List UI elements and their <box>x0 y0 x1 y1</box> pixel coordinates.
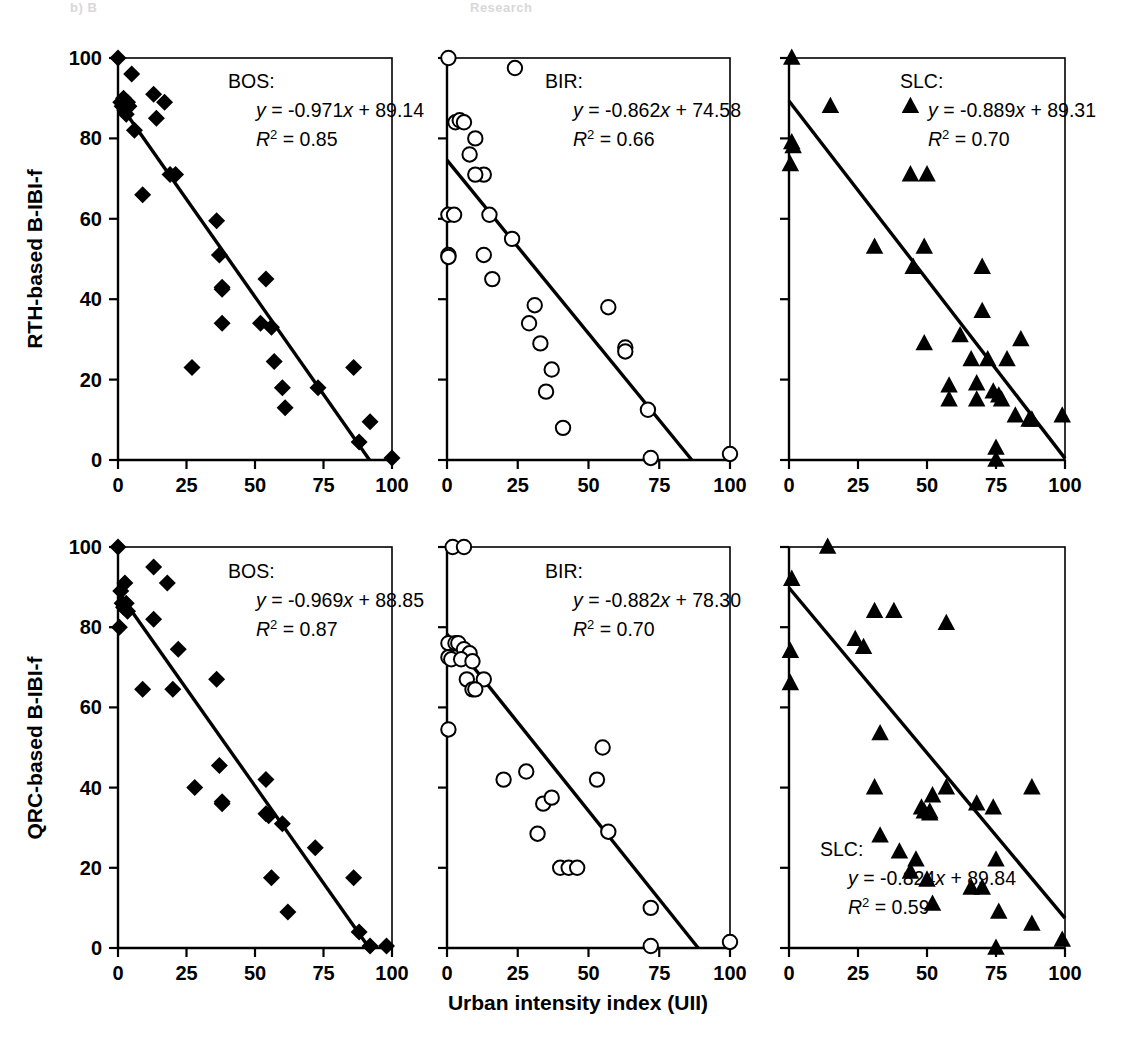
data-point-diamond <box>183 359 200 376</box>
data-point-triangle <box>885 602 902 618</box>
x-tick-label: 75 <box>312 962 334 984</box>
data-point-circle <box>644 901 658 915</box>
annotation-r-squared: R2 = 0.70 <box>573 617 655 640</box>
annotation-site-label: BOS: <box>228 560 275 582</box>
y-tick-label: 20 <box>80 369 102 391</box>
data-point-circle <box>601 300 615 314</box>
data-point-diamond <box>266 353 283 370</box>
data-point-triangle <box>918 165 935 181</box>
data-point-diamond <box>274 379 291 396</box>
y-tick-label: 20 <box>80 857 102 879</box>
data-point-circle <box>468 167 482 181</box>
x-tick-label: 25 <box>175 962 197 984</box>
x-tick-label: 100 <box>713 474 746 496</box>
annotation-equation: y = -0.882x + 78.30 <box>571 589 741 611</box>
data-point-circle <box>468 131 482 145</box>
data-point-diamond <box>110 50 127 67</box>
data-point-circle <box>618 344 632 358</box>
y-tick-label: 100 <box>69 536 102 558</box>
data-point-circle <box>545 790 559 804</box>
data-point-diamond <box>170 641 187 658</box>
data-point-triangle <box>973 258 990 274</box>
data-point-triangle <box>987 850 1004 866</box>
data-point-diamond <box>279 903 296 920</box>
x-tick-label: 25 <box>847 962 869 984</box>
annotation-site-label: BIR: <box>545 560 583 582</box>
annotation-r-squared: R2 = 0.85 <box>256 127 338 150</box>
data-point-diamond <box>208 212 225 229</box>
x-tick-label: 50 <box>577 962 599 984</box>
data-point-diamond <box>208 671 225 688</box>
data-point-circle <box>601 825 615 839</box>
data-point-circle <box>723 935 737 949</box>
x-tick-label: 0 <box>441 962 452 984</box>
data-point-triangle <box>904 258 921 274</box>
data-point-circle <box>447 208 461 222</box>
data-point-triangle <box>866 778 883 794</box>
panel-top-right: 0255075100SLC:y = -0.889x + 89.31R2 = 0.… <box>780 49 1096 497</box>
x-tick-label: 100 <box>375 474 408 496</box>
panel-top-middle: 0255075100BIR:y = -0.862x + 74.58R2 = 0.… <box>438 51 747 496</box>
data-point-triangle <box>968 390 985 406</box>
y-tick-label: 60 <box>80 208 102 230</box>
x-tick-label: 100 <box>375 962 408 984</box>
data-point-triangle <box>783 49 800 65</box>
data-point-diamond <box>164 681 181 698</box>
data-point-circle <box>519 764 533 778</box>
annotation-site-label: BOS: <box>228 70 275 92</box>
x-tick-label: 100 <box>713 962 746 984</box>
data-point-circle <box>477 248 491 262</box>
data-point-triangle <box>782 155 799 171</box>
data-point-diamond <box>186 779 203 796</box>
regression-line <box>447 160 692 460</box>
data-point-circle <box>496 772 510 786</box>
data-point-triangle <box>902 97 919 113</box>
x-tick-label: 75 <box>985 474 1007 496</box>
x-tick-label: 75 <box>648 962 670 984</box>
data-point-triangle <box>940 390 957 406</box>
data-point-circle <box>485 272 499 286</box>
data-point-diamond <box>159 575 176 592</box>
figure-root: b) B Research 0255075100020406080100BOS:… <box>0 0 1138 1060</box>
x-tick-label: 50 <box>244 962 266 984</box>
x-tick-label: 0 <box>441 474 452 496</box>
data-point-diamond <box>257 271 274 288</box>
data-point-diamond <box>148 110 165 127</box>
x-tick-label: 75 <box>648 474 670 496</box>
annotation-r-squared: R2 = 0.87 <box>256 617 338 640</box>
annotation-equation: y = -0.889x + 89.31 <box>926 99 1096 121</box>
data-point-triangle <box>1012 330 1029 346</box>
data-point-circle <box>457 115 471 129</box>
ghost-header-right: Research <box>470 0 533 15</box>
y-tick-label: 60 <box>80 696 102 718</box>
data-point-triangle <box>940 376 957 392</box>
x-tick-label: 25 <box>175 474 197 496</box>
data-point-triangle <box>871 724 888 740</box>
x-axis-title: Urban intensity index (UII) <box>448 991 708 1014</box>
annotation-equation: y = -0.862x + 74.58 <box>571 99 741 121</box>
data-point-diamond <box>384 449 401 466</box>
data-point-circle <box>441 51 455 65</box>
data-point-diamond <box>211 757 228 774</box>
data-point-triangle <box>998 350 1015 366</box>
regression-line <box>118 592 369 948</box>
data-point-diamond <box>214 281 231 298</box>
annotation-r-squared: R2 = 0.70 <box>928 127 1010 150</box>
data-point-triangle <box>1007 406 1024 422</box>
annotation-r-squared: R2 = 0.66 <box>573 127 655 150</box>
annotation-equation: y = -0.969x + 88.85 <box>254 589 424 611</box>
annotation-r-squared: R2 = 0.59 <box>848 895 930 918</box>
x-tick-label: 50 <box>916 962 938 984</box>
data-point-circle <box>641 403 655 417</box>
data-point-circle <box>462 147 476 161</box>
data-point-diamond <box>307 839 324 856</box>
annotation-equation: y = -0.824x + 89.84 <box>846 867 1016 889</box>
data-point-triangle <box>987 939 1004 955</box>
x-tick-label: 50 <box>244 474 266 496</box>
y-tick-label: 40 <box>80 288 102 310</box>
regression-line <box>789 101 1065 458</box>
data-point-circle <box>528 298 542 312</box>
y-tick-label: 100 <box>69 47 102 69</box>
data-point-diamond <box>145 611 162 628</box>
data-point-triangle <box>938 778 955 794</box>
